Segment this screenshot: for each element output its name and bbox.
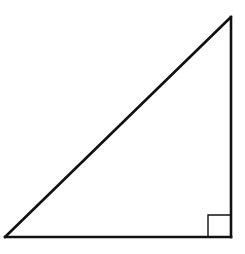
right-triangle-diagram	[0, 0, 245, 254]
